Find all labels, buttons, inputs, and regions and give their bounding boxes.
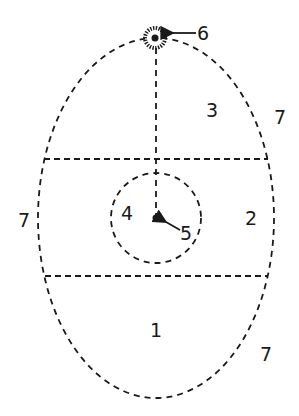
label-6: 6 (197, 22, 209, 44)
label-2: 2 (245, 207, 257, 229)
label-5: 5 (180, 222, 192, 244)
label-3: 3 (206, 99, 218, 121)
label-7-right-bottom: 7 (260, 343, 272, 365)
label-4: 4 (121, 202, 133, 224)
center-dot-icon (153, 215, 160, 222)
label-1: 1 (150, 319, 162, 341)
diagram-canvas: 6 3 7 7 4 5 2 1 7 (0, 0, 299, 416)
radiant-point-icon (145, 28, 165, 48)
label-7-left: 7 (18, 209, 30, 231)
arrow-to-point-5 (166, 222, 180, 230)
label-7-right-top: 7 (274, 106, 286, 128)
